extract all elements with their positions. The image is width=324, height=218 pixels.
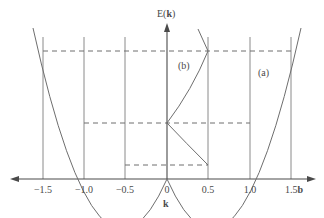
curve-b-folded-band-lower — [167, 123, 208, 165]
curve-b-label: (b) — [178, 60, 190, 71]
tick-label-neg-1-5: −1.5 — [34, 184, 52, 195]
tick-label-1-5: 1.5b — [285, 184, 303, 195]
k-axis-left-arrow-icon — [10, 176, 19, 182]
curve-b-folded-band-upper — [198, 29, 208, 51]
tick-unit-label: b — [297, 184, 303, 195]
energy-axis-label: E(k) — [157, 8, 175, 19]
k-axis-label: k — [163, 198, 169, 209]
tick-label-neg-0-5: −0.5 — [116, 184, 134, 195]
curve-a-label: (a) — [258, 67, 269, 78]
tick-label-1-0: 1.0 — [244, 184, 257, 195]
k-axis-right-arrow-icon — [307, 176, 316, 182]
tick-label-neg-1-0: −1.0 — [75, 184, 93, 195]
tick-label-0-5: 0.5 — [202, 184, 215, 195]
tick-label-0: 0 — [165, 184, 170, 195]
energy-axis-arrow-icon — [164, 23, 170, 32]
